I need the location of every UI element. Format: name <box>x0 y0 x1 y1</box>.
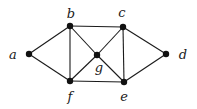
node-g <box>94 52 100 58</box>
edge-c-e <box>123 27 124 82</box>
edge-c-d <box>123 27 166 54</box>
node-f <box>67 78 73 84</box>
edge-f-g <box>70 55 97 81</box>
node-d <box>163 51 169 57</box>
node-label-b: b <box>67 6 75 21</box>
node-label-e: e <box>120 89 128 104</box>
edge-e-d <box>124 54 166 82</box>
node-c <box>120 24 126 30</box>
edge-b-c <box>70 26 123 27</box>
node-a <box>26 51 32 57</box>
node-label-g: g <box>95 60 103 75</box>
edge-a-b <box>29 26 70 54</box>
node-label-d: d <box>179 47 187 62</box>
node-label-f: f <box>67 89 75 104</box>
edge-c-g <box>97 27 123 55</box>
edge-a-f <box>29 54 70 81</box>
node-label-c: c <box>118 5 126 20</box>
edge-f-e <box>70 81 124 82</box>
node-label-a: a <box>9 47 17 62</box>
node-b <box>67 23 73 29</box>
graph-diagram: abcdefg <box>0 0 197 109</box>
nodes-group <box>26 23 169 85</box>
node-e <box>121 79 127 85</box>
edge-b-g <box>70 26 97 55</box>
